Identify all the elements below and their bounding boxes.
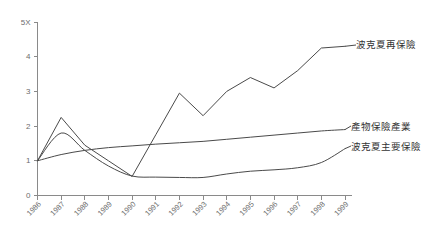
leader-line-reinsurance [345, 45, 356, 46]
series-line-industry [38, 130, 346, 161]
x-tick-label: 1987 [48, 200, 66, 218]
y-tick-label: 2 [26, 122, 31, 131]
x-tick-label: 1992 [167, 200, 185, 218]
legend-leader-lines [345, 45, 356, 149]
x-axis-tick-labels: 1986198719881989199019911992199319941995… [25, 200, 351, 218]
legend-label-industry: 產物保險產業 [351, 121, 411, 132]
y-axis-tick-labels: 012345X [21, 18, 31, 201]
x-tick-label: 1990 [119, 200, 137, 218]
chart-canvas: 012345X 19861987198819891990199119921993… [0, 0, 437, 239]
x-tick-label: 1999 [332, 200, 350, 218]
y-axis-ticks [34, 22, 38, 196]
x-axis-ticks [38, 196, 346, 200]
legend-label-reinsurance: 波克夏再保險 [356, 39, 416, 50]
y-tick-label: 4 [26, 52, 31, 61]
x-tick-label: 1994 [214, 200, 232, 218]
x-tick-label: 1988 [72, 200, 90, 218]
legend-label-primary: 波克夏主要保險 [351, 141, 421, 152]
x-tick-label: 1991 [143, 200, 161, 218]
line-chart: 012345X 19861987198819891990199119921993… [0, 0, 437, 239]
x-tick-label: 1997 [285, 200, 303, 218]
y-tick-label: 0 [26, 191, 31, 200]
x-tick-label: 1986 [25, 200, 43, 218]
series-lines [38, 46, 346, 177]
y-tick-label: 1 [26, 156, 31, 165]
x-tick-label: 1993 [190, 200, 208, 218]
y-tick-label: 5X [21, 18, 31, 27]
series-line-reinsurance [38, 46, 346, 176]
x-tick-label: 1998 [309, 200, 327, 218]
series-line-primary [38, 133, 346, 178]
x-tick-label: 1989 [96, 200, 114, 218]
x-tick-label: 1995 [238, 200, 256, 218]
x-tick-label: 1996 [261, 200, 279, 218]
y-tick-label: 3 [26, 87, 31, 96]
